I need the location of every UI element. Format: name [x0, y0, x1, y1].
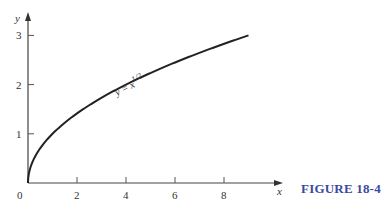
y-ticks: 123 — [16, 29, 34, 139]
y-axis-arrow-icon — [25, 12, 31, 21]
x-ticks: 02468 — [17, 177, 227, 201]
x-tick-label: 4 — [123, 189, 129, 201]
y-tick-label: 3 — [16, 29, 22, 41]
x-axis-label: x — [276, 185, 282, 197]
svg-text:y = x1/2: y = x1/2 — [111, 71, 146, 98]
x-tick-label: 8 — [221, 189, 227, 201]
y-tick-label: 2 — [16, 79, 22, 91]
sqrt-curve — [28, 35, 249, 183]
curve-label: y = x1/2 — [111, 71, 146, 98]
y-axis-label: y — [14, 12, 20, 24]
chart-canvas: 123 02468 y x y = x1/2 — [0, 0, 386, 211]
x-tick-label: 0 — [17, 189, 23, 201]
figure-caption: FIGURE 18-4 — [301, 181, 381, 197]
y-tick-label: 1 — [16, 128, 22, 140]
x-tick-label: 6 — [172, 189, 178, 201]
x-tick-label: 2 — [74, 189, 80, 201]
